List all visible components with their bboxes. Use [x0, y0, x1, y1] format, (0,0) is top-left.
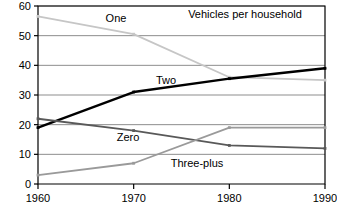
x-tick-label-1970: 1970 [121, 192, 145, 204]
x-tick-label-1960: 1960 [26, 192, 50, 204]
chart-container: 01020304050601960197019801990Vehicles pe… [0, 0, 337, 208]
series-label-one: One [106, 12, 127, 24]
series-label-three-plus: Three-plus [171, 157, 224, 169]
y-tick-label-30: 30 [19, 89, 31, 101]
y-tick-label-40: 40 [19, 59, 31, 71]
y-tick-label-0: 0 [25, 178, 31, 190]
series-label-two: Two [156, 74, 176, 86]
chart-title: Vehicles per household [188, 8, 302, 20]
chart-text-layer: 01020304050601960197019801990Vehicles pe… [0, 0, 337, 208]
series-label-zero: Zero [117, 131, 140, 143]
x-tick-label-1980: 1980 [217, 192, 241, 204]
y-tick-label-50: 50 [19, 30, 31, 42]
y-tick-label-10: 10 [19, 148, 31, 160]
y-tick-label-60: 60 [19, 0, 31, 12]
y-tick-label-20: 20 [19, 119, 31, 131]
x-tick-label-1990: 1990 [313, 192, 337, 204]
